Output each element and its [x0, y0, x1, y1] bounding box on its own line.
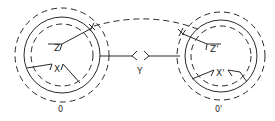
left-inner-dashed-circle [31, 24, 93, 86]
left-x-line-left [27, 64, 52, 68]
connector-right-bracket [144, 51, 149, 60]
left-x-tick-right [61, 64, 63, 70]
right-x-label: X' [216, 68, 225, 78]
right-z-line [183, 34, 207, 44]
left-system [15, 8, 109, 102]
left-x-line-right [63, 64, 80, 83]
left-outer-dashed-circle [15, 8, 109, 102]
right-z-tick [206, 44, 207, 50]
right-cross-mark [178, 28, 184, 36]
left-z-label: Z [54, 43, 60, 53]
diagram-canvas: Z X Y Z' X' 0 0' [0, 0, 275, 121]
connector-left-bracket [132, 51, 137, 60]
connector-label: Y [136, 66, 143, 76]
connector-y [100, 51, 180, 60]
left-x-label: X [54, 64, 60, 74]
right-x-line-right [228, 70, 247, 82]
right-outer-dashed-circle [177, 12, 265, 100]
left-z-tick [60, 44, 62, 50]
left-solid-circle [24, 17, 100, 93]
left-system-label: 0 [58, 105, 63, 114]
left-x-tick-left [50, 64, 52, 70]
left-z-line [62, 28, 92, 44]
right-system [177, 12, 265, 100]
right-system-label: 0' [215, 105, 222, 114]
right-x-line-left [192, 70, 214, 79]
right-z-label: Z' [210, 44, 219, 54]
dashed-link-arc [94, 19, 200, 30]
